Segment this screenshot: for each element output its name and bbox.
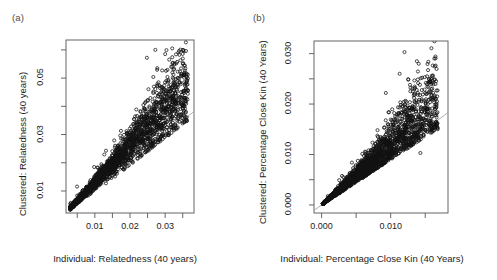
panel-a: (a) 0.010.030.050.010.020.03Clustered: R…	[0, 0, 250, 280]
panel-b: (b) 0.0000.0100.0200.0300.0000.010Cluste…	[247, 0, 497, 280]
x-tick-label: 0.010	[368, 221, 414, 231]
x-axis-title: Individual: Relatedness (40 years)	[0, 253, 250, 264]
y-tick-label: 0.010	[283, 133, 293, 173]
data-point-group	[321, 40, 439, 206]
x-tick-label: 0.000	[299, 221, 345, 231]
y-tick-label: 0.01	[35, 170, 45, 210]
y-tick-label: 0.03	[35, 114, 45, 154]
figure-root: (a) 0.010.030.050.010.020.03Clustered: R…	[0, 0, 497, 280]
y-tick-label: 0.000	[283, 184, 293, 224]
x-tick-label: 0.03	[142, 221, 188, 231]
y-tick-label: 0.020	[283, 83, 293, 123]
y-tick-label: 0.05	[35, 57, 45, 97]
y-tick-label: 0.030	[283, 33, 293, 73]
y-axis-title: Clustered: Relatedness (40 years)	[17, 72, 28, 216]
panel-a-plot-area: 0.010.030.050.010.020.03Clustered: Relat…	[0, 0, 250, 280]
data-point-group	[69, 41, 190, 211]
x-axis-title: Individual: Percentage Close Kin (40 Yea…	[247, 253, 497, 264]
panel-b-plot-area: 0.0000.0100.0200.0300.0000.010Clustered:…	[247, 0, 497, 280]
y-axis-title: Clustered: Percentage Close Kin (40 Year…	[257, 40, 268, 224]
